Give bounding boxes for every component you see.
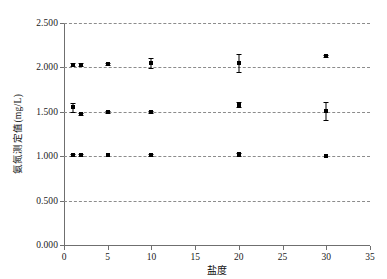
data-point: [324, 154, 328, 158]
error-bar-cap: [149, 58, 154, 59]
x-tick-label: 0: [62, 252, 67, 262]
error-bar-cap: [236, 54, 241, 55]
data-point: [324, 54, 328, 58]
x-tick-label: 35: [365, 252, 375, 262]
y-tick-mark: [60, 112, 64, 113]
y-tick-label: 1.000: [36, 151, 58, 161]
ammonia-nitrogen-salinity-chart: 氨氮测定值(mg/L) 0.0000.5001.0001.5002.0002.5…: [0, 0, 387, 279]
data-point: [79, 63, 83, 67]
x-tick-label: 5: [105, 252, 110, 262]
y-tick-label: 2.000: [36, 62, 58, 72]
y-tick-mark: [60, 201, 64, 202]
data-point: [237, 103, 241, 107]
gridline-y: [64, 201, 370, 202]
x-axis-title: 盐度: [64, 262, 370, 277]
data-point: [149, 61, 153, 65]
error-bar-cap: [324, 120, 329, 121]
data-point: [324, 109, 328, 113]
y-tick-label: 0.000: [36, 240, 58, 250]
x-tick-mark: [151, 246, 152, 250]
x-tick-mark: [108, 246, 109, 250]
data-point: [106, 62, 110, 66]
error-bar-cap: [236, 72, 241, 73]
gridline-y: [64, 67, 370, 68]
y-tick-label: 1.500: [36, 107, 58, 117]
data-point: [106, 153, 110, 157]
y-tick-mark: [60, 156, 64, 157]
error-bar-cap: [236, 107, 241, 108]
data-point: [71, 105, 75, 109]
y-axis-title-text: 氨氮测定值(mg/L): [10, 94, 24, 174]
y-tick-mark: [60, 23, 64, 24]
data-point: [79, 153, 83, 157]
x-tick-mark: [239, 246, 240, 250]
data-point: [106, 110, 110, 114]
gridline-y: [64, 23, 370, 24]
x-tick-mark: [370, 246, 371, 250]
plot-area: 0.0000.5001.0001.5002.0002.500: [64, 23, 370, 245]
y-tick-label: 0.500: [36, 196, 58, 206]
x-tick-mark: [283, 246, 284, 250]
x-tick-mark: [326, 246, 327, 250]
data-point: [237, 152, 241, 156]
y-tick-mark: [60, 67, 64, 68]
y-tick-label: 2.500: [36, 18, 58, 28]
x-tick-label: 15: [190, 252, 200, 262]
error-bar-cap: [70, 112, 75, 113]
data-point: [237, 61, 241, 65]
data-point: [71, 153, 75, 157]
x-tick-mark: [64, 246, 65, 250]
error-bar-cap: [70, 103, 75, 104]
x-tick-label: 30: [322, 252, 332, 262]
x-tick-mark: [195, 246, 196, 250]
data-point: [149, 110, 153, 114]
x-tick-label: 10: [147, 252, 157, 262]
error-bar-cap: [149, 68, 154, 69]
x-tick-label: 25: [278, 252, 288, 262]
data-point: [149, 153, 153, 157]
data-point: [79, 112, 83, 116]
x-tick-label: 20: [234, 252, 244, 262]
error-bar-cap: [324, 102, 329, 103]
y-axis-title: 氨氮测定值(mg/L): [9, 23, 25, 245]
data-point: [71, 63, 75, 67]
